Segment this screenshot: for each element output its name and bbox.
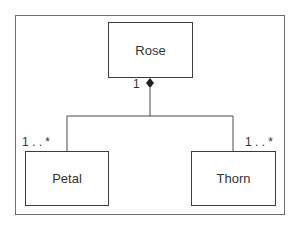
rose-multiplicity: 1 <box>133 77 140 91</box>
class-thorn[interactable]: Thorn <box>191 151 276 206</box>
class-thorn-label: Thorn <box>217 171 251 186</box>
thorn-multiplicity: 1 . . * <box>245 135 273 149</box>
composition-connectors <box>67 88 233 151</box>
composition-diamond-icon <box>146 78 154 88</box>
class-petal-label: Petal <box>52 171 82 186</box>
class-petal[interactable]: Petal <box>25 151 109 206</box>
petal-multiplicity: 1 . . * <box>22 135 50 149</box>
class-rose-label: Rose <box>135 43 165 58</box>
class-rose[interactable]: Rose <box>108 22 193 78</box>
